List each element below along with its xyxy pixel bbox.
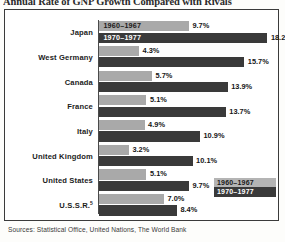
legend: 1960–1967 1970–1977: [214, 178, 276, 197]
category-label: U.S.S.R.5: [5, 200, 93, 211]
page-title: Annual Rate of GNP Growth Compared with …: [3, 0, 281, 8]
value-label: 7.0%: [164, 194, 184, 204]
bar-late[interactable]: [99, 107, 225, 117]
bar-late[interactable]: [99, 131, 200, 141]
bar-early[interactable]: [99, 145, 129, 155]
category-label: United Kingdom: [5, 151, 93, 160]
bar-pair: 3.2%10.1%: [99, 143, 278, 167]
value-label: 18.2%: [267, 33, 285, 43]
bar-early[interactable]: [99, 95, 146, 105]
value-label: 9.7%: [189, 21, 209, 31]
bar-late[interactable]: [99, 57, 244, 67]
bar-row: Canada5.7%13.9%: [5, 69, 278, 93]
footnote-marker: 5: [90, 200, 93, 206]
bar-late[interactable]: [99, 156, 192, 166]
bar-early[interactable]: [99, 169, 146, 179]
bar-period-caption-late: 1970–1977: [103, 33, 141, 43]
bar-pair: 5.7%13.9%: [99, 69, 278, 93]
bar-pair: 4.9%10.9%: [99, 119, 278, 143]
value-label: 10.1%: [193, 156, 217, 166]
value-label: 3.2%: [129, 145, 149, 155]
chart-frame: Japan1960–19679.7%1970–197718.2%West Ger…: [4, 9, 279, 221]
legend-item-early: 1960–1967: [214, 178, 276, 187]
value-label: 8.4%: [177, 205, 197, 215]
bar-row: France5.1%13.7%: [5, 94, 278, 118]
bar-track: 3.2%: [99, 145, 278, 155]
value-label: 4.9%: [145, 120, 165, 130]
bar-track: 4.3%: [99, 46, 278, 56]
bar-track: 10.9%: [99, 131, 278, 141]
bar-track: 1970–197718.2%: [99, 33, 278, 43]
value-label: 13.7%: [226, 107, 250, 117]
bar-row: West Germany4.3%15.7%: [5, 45, 278, 69]
chart-page: Annual Rate of GNP Growth Compared with …: [0, 0, 285, 242]
bar-late[interactable]: [99, 82, 227, 92]
bar-track: 15.7%: [99, 57, 278, 67]
category-label: West Germany: [5, 52, 93, 61]
bar-early[interactable]: [99, 194, 164, 204]
bar-track: 1960–19679.7%: [99, 21, 278, 31]
bar-row: Japan1960–19679.7%1970–197718.2%: [5, 20, 278, 44]
bar-track: 13.9%: [99, 82, 278, 92]
value-label: 5.1%: [146, 95, 166, 105]
legend-item-late: 1970–1977: [214, 187, 276, 196]
value-label: 5.1%: [146, 169, 166, 179]
value-label: 4.3%: [139, 46, 159, 56]
bar-early[interactable]: [99, 71, 152, 81]
value-label: 9.7%: [189, 181, 209, 191]
category-label: Japan: [5, 28, 93, 37]
category-label: United States: [5, 176, 93, 185]
source-note: Sources: Statistical Office, United Nati…: [8, 226, 187, 233]
bar-pair: 5.1%13.7%: [99, 94, 278, 118]
bar-track: 10.1%: [99, 156, 278, 166]
bar-early[interactable]: [99, 46, 139, 56]
bar-pair: 4.3%15.7%: [99, 45, 278, 69]
bar-row: Italy4.9%10.9%: [5, 119, 278, 143]
value-label: 15.7%: [244, 57, 268, 67]
bar-track: 5.7%: [99, 71, 278, 81]
bar-track: 13.7%: [99, 107, 278, 117]
value-label: 13.9%: [228, 82, 252, 92]
bar-period-caption-early: 1960–1967: [103, 21, 141, 31]
bar-late[interactable]: [99, 205, 177, 215]
category-label: Italy: [5, 126, 93, 135]
bar-track: 5.1%: [99, 95, 278, 105]
bar-late[interactable]: [99, 181, 189, 191]
bar-early[interactable]: [99, 120, 144, 130]
value-label: 10.9%: [200, 131, 224, 141]
bar-pair: 1960–19679.7%1970–197718.2%: [99, 20, 278, 44]
value-label: 5.7%: [152, 71, 172, 81]
bar-track: 4.9%: [99, 120, 278, 130]
bar-track: 8.4%: [99, 205, 278, 215]
bar-row: United Kingdom3.2%10.1%: [5, 143, 278, 167]
category-label: France: [5, 102, 93, 111]
category-label: Canada: [5, 77, 93, 86]
